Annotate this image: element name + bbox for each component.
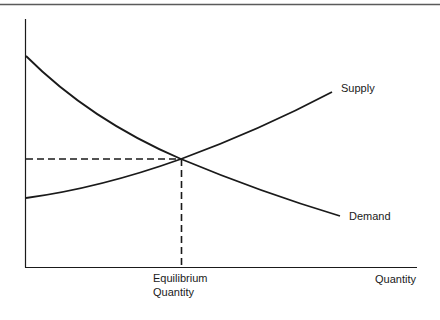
chart-canvas <box>0 0 440 320</box>
demand-label: Demand <box>349 210 391 223</box>
x-axis-label: Quantity <box>375 273 416 286</box>
demand-curve <box>26 56 340 216</box>
supply-demand-chart: Supply Demand Quantity Equilibrium Quant… <box>0 0 440 320</box>
equilibrium-quantity-label-line1: Equilibrium <box>153 272 207 285</box>
supply-label: Supply <box>341 82 375 95</box>
supply-curve <box>26 92 332 198</box>
equilibrium-quantity-label-line2: Quantity <box>153 286 194 299</box>
